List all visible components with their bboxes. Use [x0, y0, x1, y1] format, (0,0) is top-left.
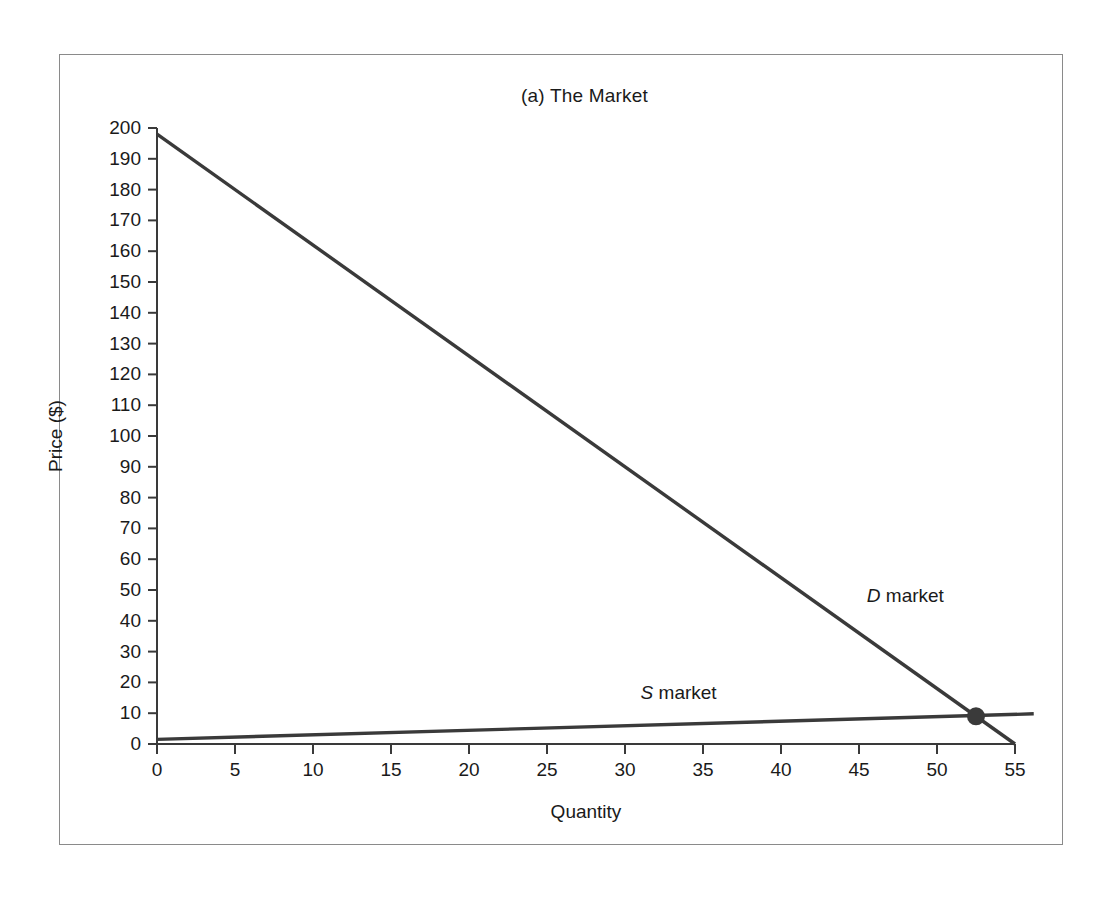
series-line-d-market: [157, 134, 1015, 744]
x-axis-title: Quantity: [551, 801, 622, 822]
y-tick-label: 10: [120, 702, 141, 723]
series-label-text: market: [653, 682, 717, 703]
y-tick-label: 60: [120, 548, 141, 569]
series-label-text: market: [881, 585, 945, 606]
equilibrium-point: [967, 707, 985, 725]
x-axis: 0510152025303540455055: [152, 744, 1026, 780]
y-tick-label: 70: [120, 517, 141, 538]
x-tick-label: 5: [230, 759, 241, 780]
y-tick-label: 90: [120, 456, 141, 477]
y-tick-label: 40: [120, 610, 141, 631]
x-tick-label: 25: [536, 759, 557, 780]
y-tick-label: 30: [120, 641, 141, 662]
annotations-group: [967, 707, 985, 725]
y-tick-label: 190: [109, 148, 141, 169]
x-tick-label: 35: [692, 759, 713, 780]
y-tick-label: 110: [111, 394, 141, 415]
x-tick-label: 40: [770, 759, 791, 780]
y-tick-label: 140: [109, 302, 141, 323]
y-tick-label: 160: [109, 240, 141, 261]
y-tick-label: 0: [130, 733, 141, 754]
data-series-group: D marketS market: [157, 134, 1034, 744]
series-label-symbol: D: [867, 585, 881, 606]
x-tick-label: 20: [458, 759, 479, 780]
x-tick-label: 30: [614, 759, 635, 780]
series-label-d-market: D market: [867, 585, 945, 606]
series-label-symbol: S: [641, 682, 654, 703]
chart-plot-area: 0102030405060708090100110120130140150160…: [0, 0, 1117, 899]
y-tick-label: 50: [120, 579, 141, 600]
series-label-s-market: S market: [641, 682, 718, 703]
y-axis-title: Price ($): [45, 400, 66, 472]
y-tick-label: 150: [109, 271, 141, 292]
x-tick-label: 45: [848, 759, 869, 780]
x-tick-label: 0: [152, 759, 163, 780]
y-tick-label: 20: [120, 671, 141, 692]
y-tick-label: 130: [109, 333, 141, 354]
figure-root: (a) The Market 0102030405060708090100110…: [0, 0, 1117, 899]
x-tick-label: 50: [926, 759, 947, 780]
x-tick-label: 55: [1004, 759, 1025, 780]
y-tick-label: 120: [109, 363, 141, 384]
y-tick-label: 100: [109, 425, 141, 446]
y-axis: 0102030405060708090100110120130140150160…: [109, 117, 157, 754]
y-tick-label: 80: [120, 487, 141, 508]
x-tick-label: 15: [380, 759, 401, 780]
x-tick-label: 10: [302, 759, 323, 780]
y-tick-label: 170: [109, 209, 141, 230]
y-tick-label: 200: [109, 117, 141, 138]
y-tick-label: 180: [109, 179, 141, 200]
series-line-s-market: [157, 714, 1034, 740]
